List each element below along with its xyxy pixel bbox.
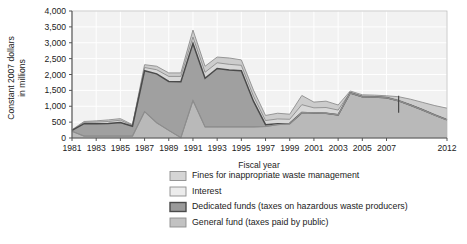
legend-item[interactable]: General fund (taxes paid by public) (170, 217, 328, 228)
x-tick-label: 1991 (183, 143, 202, 153)
x-axis-title: Fiscal year (238, 160, 280, 170)
legend-label: Dedicated funds (taxes on hazardous wast… (192, 201, 408, 211)
x-tick-label: 1987 (135, 143, 154, 153)
y-tick-label: 0 (61, 133, 66, 143)
legend-item[interactable]: Fines for inappropriate waste management (170, 170, 360, 181)
x-tick-label: 1993 (208, 143, 227, 153)
x-tick-label: 1985 (111, 143, 130, 153)
legend-swatch (170, 172, 186, 181)
y-axis-title-line2: in millions (17, 59, 27, 97)
y-tick-label: 1,000 (44, 101, 66, 111)
y-tick-label: 3,500 (44, 22, 66, 32)
legend-label: General fund (taxes paid by public) (192, 217, 328, 227)
x-tick-label: 2012 (437, 143, 456, 153)
legend-swatch (170, 187, 186, 196)
x-tick-label: 1995 (232, 143, 251, 153)
x-tick-label: 1999 (280, 143, 299, 153)
stacked-area-chart: Constant 2007 dollars in millions 05001,… (0, 0, 467, 244)
x-tick-label: 2001 (304, 143, 323, 153)
y-tick-label: 1,500 (44, 85, 66, 95)
y-tick-label: 2,500 (44, 54, 66, 64)
plot-area (69, 11, 447, 141)
legend-item[interactable]: Interest (170, 186, 222, 197)
y-tick-label: 3,000 (44, 38, 66, 48)
x-tick-label: 1989 (159, 143, 178, 153)
legend-swatch (170, 218, 186, 227)
x-tick-label: 2007 (377, 143, 396, 153)
x-tick-label: 1981 (62, 143, 81, 153)
y-axis-title-line1: Constant 2007 dollars (6, 36, 16, 120)
legend-label: Interest (192, 186, 222, 196)
y-tick-label: 2,000 (44, 70, 66, 80)
y-tick-label: 500 (52, 117, 67, 127)
legend-label: Fines for inappropriate waste management (192, 170, 360, 180)
x-tick-label: 2003 (329, 143, 348, 153)
x-tick-label: 1983 (87, 143, 106, 153)
chart-figure: Constant 2007 dollars in millions 05001,… (0, 0, 467, 244)
legend-swatch (170, 203, 186, 212)
legend-item[interactable]: Dedicated funds (taxes on hazardous wast… (170, 201, 408, 212)
x-tick-label: 2005 (353, 143, 372, 153)
y-tick-label: 4,000 (44, 6, 66, 16)
x-tick-label: 1997 (256, 143, 275, 153)
